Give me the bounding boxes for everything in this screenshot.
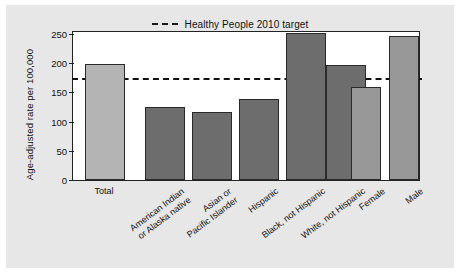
- plot-area: 050100150200250: [72, 31, 420, 181]
- y-axis-label: Age-adjusted rate per 100,000: [24, 40, 35, 190]
- bar: [145, 107, 185, 180]
- y-axis-tick-label: 100: [45, 116, 67, 127]
- bar: [239, 99, 279, 180]
- y-axis-tick-mark: [69, 151, 74, 152]
- legend-dashed-line-icon: [152, 23, 178, 25]
- y-axis-tick-mark: [69, 34, 74, 35]
- bar: [85, 64, 125, 180]
- y-axis-tick-label: 0: [45, 175, 67, 186]
- y-axis-tick-label: 50: [45, 146, 67, 157]
- bar: [351, 87, 381, 180]
- chart-figure: Healthy People 2010 target Age-adjusted …: [6, 5, 454, 268]
- legend-label-target: Healthy People 2010 target: [185, 19, 309, 30]
- bar: [192, 112, 232, 180]
- bar: [389, 36, 419, 180]
- x-axis-tick-label: Total: [64, 186, 144, 197]
- y-axis-tick-mark: [69, 92, 74, 93]
- y-axis-tick-mark: [69, 122, 74, 123]
- y-axis-tick-label: 250: [45, 28, 67, 39]
- y-axis-tick-mark: [69, 180, 74, 181]
- y-axis-tick-mark: [69, 63, 74, 64]
- bar: [286, 33, 326, 180]
- y-axis-tick-label: 150: [45, 87, 67, 98]
- y-axis-tick-label: 200: [45, 57, 67, 68]
